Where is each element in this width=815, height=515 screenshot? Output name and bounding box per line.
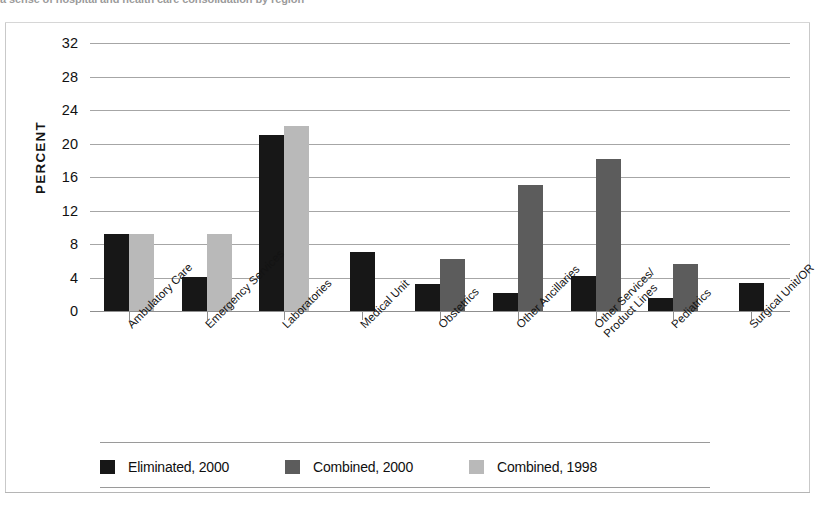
legend-label: Eliminated, 2000 — [128, 459, 229, 475]
plot-area: 322824201612840 — [90, 43, 790, 311]
legend-rule-top — [100, 442, 710, 443]
frame-border-bottom — [5, 492, 810, 493]
gridline-12 — [90, 211, 790, 212]
legend-item-0[interactable]: Eliminated, 2000 — [100, 459, 229, 475]
chart-legend: Eliminated, 2000Combined, 2000Combined, … — [100, 452, 710, 482]
bar — [648, 298, 673, 311]
y-tick-label-8: 8 — [44, 236, 78, 252]
frame-border-right — [809, 22, 810, 492]
gridline-20 — [90, 144, 790, 145]
y-tick-label-0: 0 — [44, 303, 78, 319]
legend-label: Combined, 2000 — [313, 459, 413, 475]
bar — [284, 126, 309, 311]
legend-item-2[interactable]: Combined, 1998 — [469, 459, 597, 475]
y-tick-label-12: 12 — [44, 203, 78, 219]
y-tick-label-28: 28 — [44, 69, 78, 85]
legend-swatch-icon — [100, 460, 115, 474]
legend-rule-bottom — [100, 487, 710, 488]
bar — [596, 159, 621, 311]
bar — [182, 277, 207, 311]
legend-item-1[interactable]: Combined, 2000 — [285, 459, 413, 475]
bar — [739, 283, 764, 311]
bar — [571, 276, 596, 311]
frame-border-top — [5, 22, 810, 23]
legend-swatch-icon — [285, 460, 300, 474]
gridline-16 — [90, 177, 790, 178]
frame-border-left — [5, 22, 6, 492]
legend-label: Combined, 1998 — [497, 459, 597, 475]
legend-swatch-icon — [469, 460, 484, 474]
y-tick-label-16: 16 — [44, 169, 78, 185]
bar — [104, 234, 129, 311]
gridline-32 — [90, 43, 790, 44]
bar-chart-figure: a sense of hospital and health care cons… — [0, 0, 815, 515]
gridline-24 — [90, 110, 790, 111]
bar — [350, 252, 375, 311]
bar — [259, 135, 284, 311]
y-tick-label-24: 24 — [44, 102, 78, 118]
bar — [415, 284, 440, 311]
bar — [493, 293, 518, 311]
y-tick-label-4: 4 — [44, 270, 78, 286]
cropped-caption-text: a sense of hospital and health care cons… — [0, 0, 660, 7]
gridline-8 — [90, 244, 790, 245]
y-tick-label-32: 32 — [44, 35, 78, 51]
gridline-28 — [90, 77, 790, 78]
y-tick-label-20: 20 — [44, 136, 78, 152]
bar — [518, 185, 543, 311]
